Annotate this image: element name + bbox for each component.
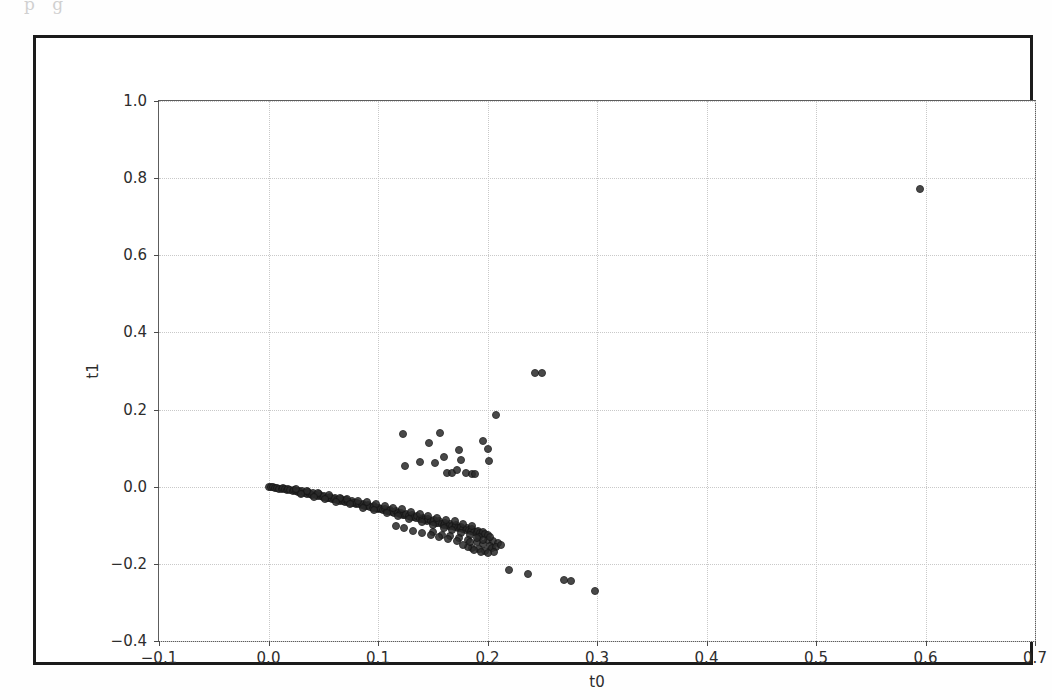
y-tick-label: 0.4 — [123, 323, 147, 341]
scatter-point — [492, 411, 500, 419]
gridline-vertical — [488, 101, 490, 641]
scatter-point — [424, 512, 432, 520]
x-tick-mark — [269, 641, 270, 646]
scatter-point — [444, 535, 452, 543]
scatter-point — [524, 570, 532, 578]
scatter-point — [497, 541, 505, 549]
scatter-point — [477, 548, 485, 556]
gridline-vertical — [816, 101, 818, 641]
gridline-horizontal — [159, 101, 1035, 103]
y-tick-mark — [154, 332, 159, 333]
gridline-horizontal — [159, 255, 1035, 257]
gridline-horizontal — [159, 332, 1035, 334]
y-tick-mark — [154, 564, 159, 565]
y-tick-label: −0.2 — [111, 555, 147, 573]
scatter-point — [538, 369, 546, 377]
x-tick-label: 0.3 — [585, 649, 609, 667]
scatter-point — [485, 457, 493, 465]
scatter-point — [440, 453, 448, 461]
scatter-point — [505, 566, 513, 574]
scatter-point — [405, 515, 413, 523]
y-tick-mark — [154, 641, 159, 642]
scatter-point — [409, 527, 417, 535]
scatter-point — [468, 522, 476, 530]
gridline-vertical — [269, 101, 271, 641]
scatter-point — [370, 506, 378, 514]
scatter-point — [455, 446, 463, 454]
scatter-point — [321, 495, 329, 503]
x-tick-label: 0.7 — [1023, 649, 1047, 667]
y-tick-mark — [154, 255, 159, 256]
scatter-point — [442, 516, 450, 524]
scatter-plot-axes: −0.10.00.10.20.30.40.50.60.7−0.4−0.20.00… — [158, 100, 1036, 642]
scatter-point — [435, 533, 443, 541]
x-tick-mark — [707, 641, 708, 646]
y-tick-mark — [154, 178, 159, 179]
scatter-point — [416, 458, 424, 466]
y-tick-mark — [154, 410, 159, 411]
x-tick-label: 0.6 — [914, 649, 938, 667]
scatter-point — [431, 459, 439, 467]
scatter-point — [401, 462, 409, 470]
y-tick-label: 0.0 — [123, 478, 147, 496]
gridline-vertical — [707, 101, 709, 641]
x-tick-mark — [816, 641, 817, 646]
y-tick-label: −0.4 — [111, 632, 147, 650]
figure-frame: −0.10.00.10.20.30.40.50.60.7−0.4−0.20.00… — [33, 35, 1033, 665]
scatter-point — [400, 524, 408, 532]
scatter-point — [453, 466, 461, 474]
gridline-vertical — [926, 101, 928, 641]
scatter-point — [418, 529, 426, 537]
scatter-point — [471, 470, 479, 478]
scatter-point — [394, 512, 402, 520]
scatter-point — [916, 185, 924, 193]
y-tick-mark — [154, 101, 159, 102]
scatter-point — [436, 429, 444, 437]
scan-bleed-text: p g — [24, 0, 444, 16]
gridline-horizontal — [159, 178, 1035, 180]
y-tick-mark — [154, 487, 159, 488]
scatter-point — [425, 439, 433, 447]
x-tick-label: 0.1 — [366, 649, 390, 667]
scatter-point — [457, 456, 465, 464]
scatter-point — [392, 522, 400, 530]
scatter-point — [484, 445, 492, 453]
scatter-point — [427, 531, 435, 539]
y-axis-label: t1 — [84, 363, 102, 378]
gridline-horizontal — [159, 410, 1035, 412]
page-canvas: p g −0.10.00.10.20.30.40.50.60.7−0.4−0.2… — [0, 0, 1052, 700]
gridline-vertical — [378, 101, 380, 641]
scatter-point — [416, 510, 424, 518]
scatter-point — [359, 504, 367, 512]
y-tick-label: 0.6 — [123, 246, 147, 264]
gridline-vertical — [1035, 101, 1037, 641]
x-tick-mark — [926, 641, 927, 646]
y-tick-label: 0.2 — [123, 401, 147, 419]
scatter-point — [591, 587, 599, 595]
scatter-point — [418, 518, 426, 526]
y-tick-label: 0.8 — [123, 169, 147, 187]
x-tick-label: 0.4 — [695, 649, 719, 667]
x-tick-mark — [1035, 641, 1036, 646]
x-tick-mark — [597, 641, 598, 646]
x-tick-label: 0.2 — [476, 649, 500, 667]
x-tick-mark — [159, 641, 160, 646]
gridline-horizontal — [159, 564, 1035, 566]
scatter-point — [383, 509, 391, 517]
x-axis-label: t0 — [589, 673, 604, 691]
scatter-point — [567, 577, 575, 585]
x-tick-label: 0.0 — [257, 649, 281, 667]
scatter-point — [479, 437, 487, 445]
x-tick-label: 0.5 — [804, 649, 828, 667]
gridline-vertical — [597, 101, 599, 641]
x-tick-mark — [378, 641, 379, 646]
scatter-point — [453, 537, 461, 545]
y-tick-label: 1.0 — [123, 92, 147, 110]
scatter-point — [399, 430, 407, 438]
x-tick-label: −0.1 — [141, 649, 177, 667]
scatter-point — [346, 500, 354, 508]
x-tick-mark — [488, 641, 489, 646]
